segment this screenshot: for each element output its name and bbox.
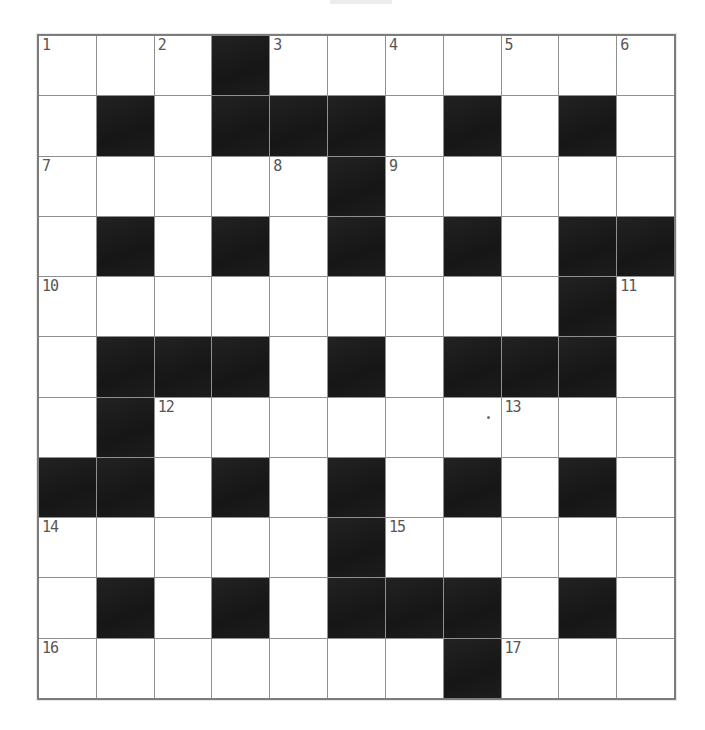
black-cell-r7-c0 — [39, 458, 96, 517]
letter-cell-r2-c6[interactable]: 9 — [386, 157, 443, 216]
letter-cell-r2-c4[interactable]: 8 — [270, 157, 327, 216]
letter-cell-r0-c4[interactable]: 3 — [270, 36, 327, 95]
letter-cell-r3-c0[interactable] — [39, 217, 96, 276]
letter-cell-r5-c6[interactable] — [386, 337, 443, 396]
letter-cell-r4-c7[interactable] — [444, 277, 501, 336]
letter-cell-r10-c2[interactable] — [155, 639, 212, 698]
letter-cell-r6-c8[interactable]: 13 — [502, 398, 559, 457]
letter-cell-r8-c6[interactable]: 15 — [386, 518, 443, 577]
clue-number: 7 — [42, 158, 50, 175]
letter-cell-r0-c7[interactable] — [444, 36, 501, 95]
black-cell-r7-c7 — [444, 458, 501, 517]
letter-cell-r8-c7[interactable] — [444, 518, 501, 577]
clue-number: 16 — [42, 640, 58, 657]
letter-cell-r9-c0[interactable] — [39, 578, 96, 637]
letter-cell-r7-c2[interactable] — [155, 458, 212, 517]
black-cell-r5-c5 — [328, 337, 385, 396]
black-cell-r9-c1 — [97, 578, 154, 637]
letter-cell-r4-c5[interactable] — [328, 277, 385, 336]
letter-cell-r3-c6[interactable] — [386, 217, 443, 276]
letter-cell-r6-c5[interactable] — [328, 398, 385, 457]
letter-cell-r4-c2[interactable] — [155, 277, 212, 336]
letter-cell-r4-c4[interactable] — [270, 277, 327, 336]
letter-cell-r8-c2[interactable] — [155, 518, 212, 577]
letter-cell-r6-c9[interactable] — [559, 398, 616, 457]
letter-cell-r6-c0[interactable] — [39, 398, 96, 457]
letter-cell-r10-c10[interactable] — [617, 639, 674, 698]
letter-cell-r4-c3[interactable] — [212, 277, 269, 336]
letter-cell-r0-c1[interactable] — [97, 36, 154, 95]
letter-cell-r2-c3[interactable] — [212, 157, 269, 216]
letter-cell-r8-c0[interactable]: 14 — [39, 518, 96, 577]
letter-cell-r4-c0[interactable]: 10 — [39, 277, 96, 336]
letter-cell-r4-c1[interactable] — [97, 277, 154, 336]
letter-cell-r7-c4[interactable] — [270, 458, 327, 517]
letter-cell-r10-c4[interactable] — [270, 639, 327, 698]
letter-cell-r8-c4[interactable] — [270, 518, 327, 577]
letter-cell-r4-c10[interactable]: 11 — [617, 277, 674, 336]
letter-cell-r5-c10[interactable] — [617, 337, 674, 396]
letter-cell-r2-c1[interactable] — [97, 157, 154, 216]
letter-cell-r9-c10[interactable] — [617, 578, 674, 637]
letter-cell-r3-c8[interactable] — [502, 217, 559, 276]
letter-cell-r6-c2[interactable]: 12 — [155, 398, 212, 457]
letter-cell-r9-c2[interactable] — [155, 578, 212, 637]
letter-cell-r0-c0[interactable]: 1 — [39, 36, 96, 95]
letter-cell-r10-c5[interactable] — [328, 639, 385, 698]
letter-cell-r9-c8[interactable] — [502, 578, 559, 637]
letter-cell-r5-c0[interactable] — [39, 337, 96, 396]
clue-number: 14 — [42, 519, 58, 536]
letter-cell-r2-c8[interactable] — [502, 157, 559, 216]
letter-cell-r8-c9[interactable] — [559, 518, 616, 577]
letter-cell-r7-c6[interactable] — [386, 458, 443, 517]
letter-cell-r7-c8[interactable] — [502, 458, 559, 517]
letter-cell-r0-c6[interactable]: 4 — [386, 36, 443, 95]
letter-cell-r3-c2[interactable] — [155, 217, 212, 276]
letter-cell-r2-c9[interactable] — [559, 157, 616, 216]
letter-cell-r8-c8[interactable] — [502, 518, 559, 577]
letter-cell-r0-c9[interactable] — [559, 36, 616, 95]
letter-cell-r0-c5[interactable] — [328, 36, 385, 95]
letter-cell-r9-c4[interactable] — [270, 578, 327, 637]
letter-cell-r6-c6[interactable] — [386, 398, 443, 457]
letter-cell-r1-c0[interactable] — [39, 96, 96, 155]
letter-cell-r6-c3[interactable] — [212, 398, 269, 457]
letter-cell-r3-c4[interactable] — [270, 217, 327, 276]
black-cell-r5-c3 — [212, 337, 269, 396]
cutoff-print-artifact — [330, 0, 392, 4]
clue-number: 11 — [620, 278, 636, 295]
letter-cell-r0-c2[interactable]: 2 — [155, 36, 212, 95]
letter-cell-r2-c10[interactable] — [617, 157, 674, 216]
letter-cell-r8-c1[interactable] — [97, 518, 154, 577]
clue-number: 1 — [42, 37, 50, 54]
letter-cell-r5-c4[interactable] — [270, 337, 327, 396]
letter-cell-r2-c7[interactable] — [444, 157, 501, 216]
black-cell-r7-c1 — [97, 458, 154, 517]
letter-cell-r7-c10[interactable] — [617, 458, 674, 517]
letter-cell-r10-c6[interactable] — [386, 639, 443, 698]
letter-cell-r0-c10[interactable]: 6 — [617, 36, 674, 95]
letter-cell-r6-c10[interactable] — [617, 398, 674, 457]
letter-cell-r1-c2[interactable] — [155, 96, 212, 155]
letter-cell-r8-c10[interactable] — [617, 518, 674, 577]
clue-number: 6 — [620, 37, 628, 54]
letter-cell-r4-c6[interactable] — [386, 277, 443, 336]
letter-cell-r0-c8[interactable]: 5 — [502, 36, 559, 95]
letter-cell-r6-c7[interactable] — [444, 398, 501, 457]
letter-cell-r10-c0[interactable]: 16 — [39, 639, 96, 698]
letter-cell-r10-c3[interactable] — [212, 639, 269, 698]
letter-cell-r10-c1[interactable] — [97, 639, 154, 698]
letter-cell-r6-c4[interactable] — [270, 398, 327, 457]
letter-cell-r1-c8[interactable] — [502, 96, 559, 155]
letter-cell-r1-c10[interactable] — [617, 96, 674, 155]
black-cell-r9-c9 — [559, 578, 616, 637]
letter-cell-r2-c2[interactable] — [155, 157, 212, 216]
letter-cell-r8-c3[interactable] — [212, 518, 269, 577]
letter-cell-r4-c8[interactable] — [502, 277, 559, 336]
letter-cell-r10-c8[interactable]: 17 — [502, 639, 559, 698]
clue-number: 9 — [389, 158, 397, 175]
letter-cell-r2-c0[interactable]: 7 — [39, 157, 96, 216]
page-background: 1234567891011121314151617 — [0, 0, 705, 730]
letter-cell-r1-c6[interactable] — [386, 96, 443, 155]
letter-cell-r10-c9[interactable] — [559, 639, 616, 698]
